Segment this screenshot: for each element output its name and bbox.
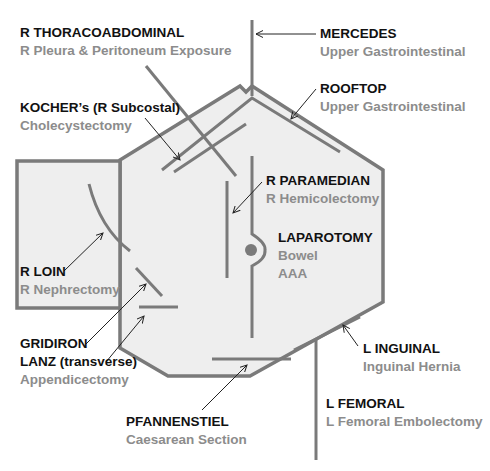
label-title-2: LANZ (transverse): [20, 353, 137, 371]
label-subtitle: R Hemicolectomy: [266, 190, 379, 208]
label-r-thoracoabdominal: R THORACOABDOMINAL R Pleura & Peritoneum…: [20, 24, 232, 60]
label-title: L FEMORAL: [326, 395, 483, 413]
label-subtitle: L Femoral Embolectomy: [326, 413, 483, 431]
label-l-inguinal: L INGUINAL Inguinal Hernia: [363, 340, 461, 376]
label-subtitle: Cholecystectomy: [20, 117, 180, 135]
label-l-femoral: L FEMORAL L Femoral Embolectomy: [326, 395, 483, 431]
label-kocher: KOCHER’s (R Subcostal) Cholecystectomy: [20, 99, 180, 135]
label-title: MERCEDES: [320, 25, 466, 43]
label-title: R PARAMEDIAN: [266, 172, 379, 190]
label-subtitle: Inguinal Hernia: [363, 358, 461, 376]
label-title: PFANNENSTIEL: [126, 413, 247, 431]
label-subtitle: Upper Gastrointestinal: [320, 43, 466, 61]
label-mercedes: MERCEDES Upper Gastrointestinal: [320, 25, 466, 61]
label-subtitle: Bowel: [278, 247, 373, 265]
label-subtitle: R Pleura & Peritoneum Exposure: [20, 42, 232, 60]
label-title: LAPAROTOMY: [278, 229, 373, 247]
label-r-paramedian: R PARAMEDIAN R Hemicolectomy: [266, 172, 379, 208]
label-title: ROOFTOP: [320, 80, 466, 98]
label-gridiron-lanz: GRIDIRON LANZ (transverse) Appendicectom…: [20, 335, 137, 389]
label-subtitle: Appendicectomy: [20, 371, 137, 389]
label-title: KOCHER’s (R Subcostal): [20, 99, 180, 117]
label-subtitle: Upper Gastrointestinal: [320, 98, 466, 116]
label-rooftop: ROOFTOP Upper Gastrointestinal: [320, 80, 466, 116]
label-r-loin: R LOIN R Nephrectomy: [20, 263, 120, 299]
label-laparotomy: LAPAROTOMY Bowel AAA: [278, 229, 373, 283]
label-pfannenstiel: PFANNENSTIEL Caesarean Section: [126, 413, 247, 449]
label-title: L INGUINAL: [363, 340, 461, 358]
l-inguinal-arrow: [343, 325, 358, 346]
label-title: R THORACOABDOMINAL: [20, 24, 232, 42]
rooftop-arrow: [291, 89, 316, 119]
label-subtitle-2: AAA: [278, 265, 373, 283]
label-subtitle: Caesarean Section: [126, 431, 247, 449]
label-subtitle: R Nephrectomy: [20, 281, 120, 299]
label-title: GRIDIRON: [20, 335, 137, 353]
umbilicus: [245, 244, 257, 256]
label-title: R LOIN: [20, 263, 120, 281]
